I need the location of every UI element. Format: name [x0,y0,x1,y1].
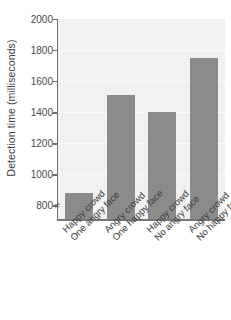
y-tick-mark [53,143,58,144]
axis-break-icon: ≠ [53,201,62,210]
y-tick-mark [53,81,58,82]
y-tick-mark [53,50,58,51]
y-tick-label: 2000 [31,14,53,25]
bar-chart-figure: Detection time (milliseconds) 8001000120… [0,0,231,320]
y-tick-mark [53,174,58,175]
y-axis-tick-labels: 800100012001400160018002000 [20,0,56,230]
y-tick-label: 1000 [31,169,53,180]
x-axis-category-labels: Happy crowdOne angry faceAngry crowdOne … [0,221,231,320]
y-axis-title: Detection time (milliseconds) [0,0,22,215]
y-tick-mark [53,19,58,20]
y-tick-label: 1800 [31,45,53,56]
y-tick-label: 800 [36,200,53,211]
y-tick-label: 1200 [31,138,53,149]
y-tick-mark [53,112,58,113]
y-tick-label: 1600 [31,76,53,87]
y-axis-title-text: Detection time (milliseconds) [5,39,17,176]
y-tick-label: 1400 [31,107,53,118]
